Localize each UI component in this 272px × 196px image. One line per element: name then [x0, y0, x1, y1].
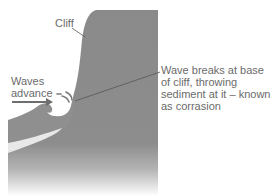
desc-line-4: as corrasion: [161, 100, 270, 112]
corrasion-description: Wave breaks at base of cliff, throwing s…: [161, 64, 270, 112]
spray-icon: [57, 92, 72, 102]
waves-advance-label: Waves advance: [11, 75, 53, 99]
desc-line-3: sediment at it – known: [161, 88, 270, 100]
desc-line-1: Wave breaks at base: [161, 64, 270, 76]
cliff-leader-line: [72, 28, 85, 37]
waves-label-line-2: advance: [11, 87, 53, 99]
desc-line-2: of cliff, throwing: [161, 76, 270, 88]
cliff-label: Cliff: [55, 17, 74, 29]
advance-arrow-icon: [12, 98, 53, 106]
corrasion-diagram: Cliff Waves advance Wave breaks at base …: [0, 0, 272, 196]
waves-label-line-1: Waves: [11, 75, 53, 87]
